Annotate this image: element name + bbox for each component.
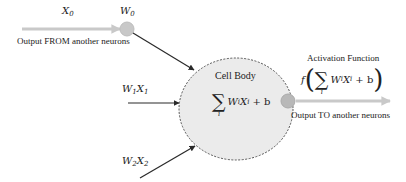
input-caption: Output FROM another neurons: [17, 36, 130, 46]
input-label-w2x2: W2X2: [122, 155, 148, 168]
weight-label-w0: W0: [120, 5, 135, 18]
activation-formula: f ( ∑i WiXi + b ): [301, 66, 383, 92]
output-node: [281, 94, 295, 108]
cell-body-formula: ∑i WiXi + b: [212, 92, 270, 111]
cell-body-title: Cell Body: [215, 70, 256, 81]
input-label-x0: X0: [62, 5, 74, 18]
activation-title: Activation Function: [307, 53, 379, 63]
output-caption: Output TO another neurons: [291, 110, 390, 120]
sigma-symbol: ∑i: [315, 70, 329, 89]
w0-to-cell-arrow: [133, 33, 194, 70]
sigma-symbol: ∑i: [212, 92, 226, 111]
weight-node-w0: [120, 22, 134, 36]
input-label-w1x1: W1X1: [122, 83, 148, 96]
